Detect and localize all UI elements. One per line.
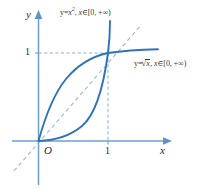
- y-axis-arrowhead: [35, 10, 43, 19]
- parabola-label-domain: ∈[0, +∞): [82, 8, 111, 17]
- origin-label: O: [44, 145, 52, 156]
- y-axis-tick-label-1: 1: [25, 47, 30, 57]
- sqrt-function-label: y=√x, x∈[0, +∞): [134, 59, 186, 68]
- sqrt-radical-group: √x: [142, 59, 150, 68]
- radical-sign-icon: √: [141, 59, 146, 68]
- x-axis-tick-label-1: 1: [105, 146, 110, 156]
- sqrt-label-domain: ∈[0, +∞): [158, 59, 187, 68]
- plot-canvas: [0, 0, 213, 189]
- y-axis-label: y: [26, 9, 31, 20]
- parabola-curve: [39, 21, 111, 141]
- x-axis-label: x: [160, 145, 165, 156]
- parabola-function-label: y=x2, x∈[0, +∞): [60, 9, 111, 17]
- identity-line-dashed: [14, 24, 142, 171]
- function-graph-figure: y x O 1 1 y=x2, x∈[0, +∞) y=√x, x∈[0, +∞…: [0, 0, 213, 189]
